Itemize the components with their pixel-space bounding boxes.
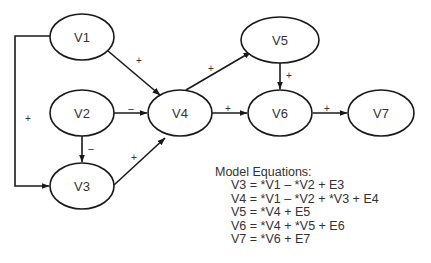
model-equations: Model Equations: V3 = *V1 – *V2 + E3 V4 … — [215, 166, 379, 246]
node-label: V4 — [172, 106, 188, 121]
sign-v2-v4: – — [128, 103, 134, 114]
sign-v1-v4: + — [136, 55, 142, 66]
equation-v3: V3 = *V1 – *V2 + E3 — [231, 179, 379, 192]
equations-title: Model Equations: — [215, 166, 379, 179]
sign-v4-v5: + — [208, 63, 214, 74]
equation-v4: V4 = *V1 – *V2 + *V3 + E4 — [231, 193, 379, 206]
node-v7: V7 — [348, 90, 414, 136]
sign-v5-v6: + — [286, 70, 292, 81]
node-v5: V5 — [241, 17, 319, 63]
node-label: V6 — [272, 106, 288, 121]
sign-v1-v3: + — [25, 113, 31, 124]
node-v1: V1 — [50, 14, 114, 60]
node-v3: V3 — [50, 163, 114, 209]
node-v2: V2 — [50, 90, 114, 136]
equation-v5: V5 = *V4 + E5 — [231, 206, 379, 219]
node-label: V7 — [373, 106, 389, 121]
sign-v3-v4: + — [131, 152, 137, 163]
node-label: V3 — [74, 179, 90, 194]
edge-v3-v4 — [114, 138, 165, 185]
node-v6: V6 — [248, 90, 312, 136]
sign-v4-v6: + — [225, 103, 231, 114]
edge-v4-v5 — [186, 52, 251, 90]
equation-v6: V6 = *V4 + *V5 + E6 — [231, 220, 379, 233]
sign-v2-v3: – — [88, 143, 94, 154]
edge-v1-v3 — [15, 36, 50, 186]
node-v4: V4 — [148, 90, 212, 136]
node-label: V1 — [74, 30, 90, 45]
sign-v6-v7: + — [324, 103, 330, 114]
edge-v1-v4 — [108, 51, 160, 95]
equation-v7: V7 = *V6 + E7 — [231, 233, 379, 246]
node-label: V2 — [74, 106, 90, 121]
node-label: V5 — [272, 33, 288, 48]
